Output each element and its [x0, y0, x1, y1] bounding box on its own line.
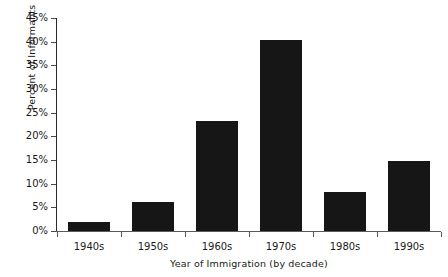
bar-1970s	[260, 40, 302, 231]
y-tick-label: 5%	[0, 202, 48, 212]
y-tick-label: 25%	[0, 108, 48, 118]
y-tick-mark	[51, 113, 56, 114]
x-tick-mark	[441, 232, 442, 237]
y-tick-mark	[51, 231, 56, 232]
bar-1990s	[388, 161, 430, 231]
y-tick-mark	[51, 89, 56, 90]
y-tick-mark	[51, 136, 56, 137]
y-tick-label: 20%	[0, 131, 48, 141]
y-tick-label: 40%	[0, 37, 48, 47]
y-tick-mark	[51, 65, 56, 66]
x-tick-mark	[121, 232, 122, 237]
y-tick-label: 15%	[0, 155, 48, 165]
y-tick-mark	[51, 18, 56, 19]
bar-1980s	[324, 192, 366, 231]
y-tick-label: 30%	[0, 84, 48, 94]
y-tick-mark	[51, 42, 56, 43]
x-tick-mark	[249, 232, 250, 237]
bar-1950s	[132, 202, 174, 231]
plot-area	[57, 18, 441, 231]
bar-chart: Percent of Informants 0%5%10%15%20%25%30…	[0, 0, 448, 277]
y-tick-label: 45%	[0, 13, 48, 23]
y-tick-mark	[51, 207, 56, 208]
bar-1960s	[196, 121, 238, 231]
y-tick-mark	[51, 184, 56, 185]
x-tick-mark	[57, 232, 58, 237]
y-tick-mark	[51, 160, 56, 161]
x-tick-mark	[377, 232, 378, 237]
y-tick-label: 10%	[0, 179, 48, 189]
y-tick-label: 35%	[0, 60, 48, 70]
bar-1940s	[68, 222, 110, 231]
y-tick-label: 0%	[0, 226, 48, 236]
x-tick-mark	[185, 232, 186, 237]
x-tick-label-1990s: 1990s	[369, 241, 448, 252]
x-tick-mark	[313, 232, 314, 237]
x-axis-title: Year of Immigration (by decade)	[57, 258, 441, 269]
